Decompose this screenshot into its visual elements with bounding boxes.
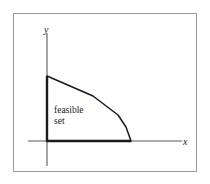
plot-canvas xyxy=(0,0,210,184)
feasible-set-label: feasible set xyxy=(54,105,84,127)
x-axis-label: x xyxy=(183,137,187,147)
feasible-set-figure: y x feasible set xyxy=(0,0,210,184)
y-axis-label: y xyxy=(44,25,48,35)
